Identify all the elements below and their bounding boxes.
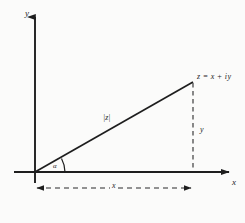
modulus-vector [35,82,193,172]
imaginary-part-label: y [200,126,204,134]
figure-canvas [0,0,245,223]
point-z-label: z = x + iy [197,73,231,81]
x-axis-label: x [232,178,236,187]
real-part-label: x [110,182,118,190]
modulus-label: |z| [103,114,111,122]
y-axis-label: y [25,9,29,18]
angle-arc [62,159,66,173]
angle-alpha-label: α [53,163,57,170]
complex-plane-figure: y x z = x + iy |z| y x α [0,0,245,223]
